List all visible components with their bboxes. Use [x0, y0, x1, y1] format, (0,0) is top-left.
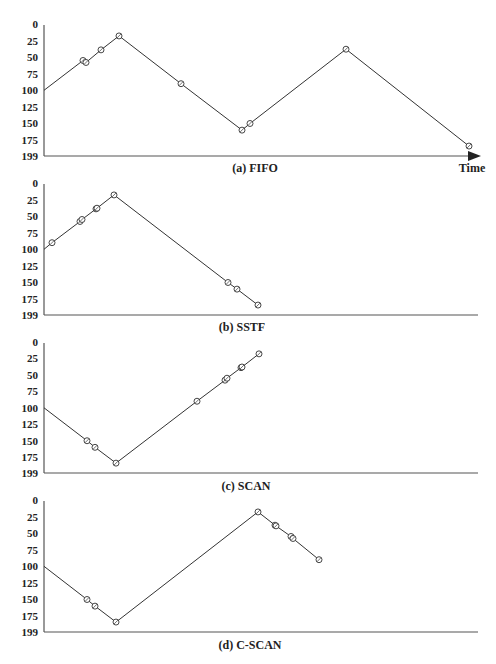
request-markers	[84, 509, 322, 625]
request-marker	[239, 127, 245, 133]
request-marker	[111, 192, 117, 198]
request-marker	[239, 364, 245, 370]
request-marker	[92, 444, 98, 450]
y-tick-label: 0	[33, 336, 39, 348]
y-axis-ticks: 0255075100125150175199	[22, 336, 39, 479]
request-marker	[83, 59, 89, 65]
head-movement-line	[44, 195, 258, 305]
y-tick-label: 100	[22, 402, 39, 414]
y-tick-label: 199	[22, 467, 39, 479]
chart-fifo: 0255075100125150175199Time(a) FIFO	[22, 18, 486, 175]
y-tick-label: 175	[22, 451, 39, 463]
y-tick-label: 125	[22, 418, 39, 430]
request-marker	[234, 286, 240, 292]
y-tick-label: 0	[33, 494, 39, 506]
chart-sstf: 0255075100125150175199(b) SSTF	[22, 177, 479, 334]
chart-caption: (a) FIFO	[232, 161, 278, 175]
y-tick-label: 150	[22, 435, 39, 447]
y-tick-label: 199	[22, 626, 39, 638]
request-marker	[343, 46, 349, 52]
request-marker	[79, 216, 85, 222]
request-marker	[84, 438, 90, 444]
head-movement-line	[44, 36, 469, 146]
y-tick-label: 125	[22, 577, 39, 589]
request-marker	[84, 596, 90, 602]
request-marker	[49, 240, 55, 246]
y-tick-label: 25	[27, 511, 39, 523]
request-marker	[290, 535, 296, 541]
chart-caption: (d) C-SCAN	[219, 638, 282, 652]
request-marker	[178, 81, 184, 87]
chart-scan: 0255075100125150175199(c) SCAN	[22, 336, 479, 493]
request-marker	[98, 47, 104, 53]
request-marker	[256, 351, 262, 357]
request-marker	[466, 143, 472, 149]
y-tick-label: 50	[27, 527, 39, 539]
y-tick-label: 75	[27, 385, 39, 397]
y-tick-label: 0	[33, 18, 39, 30]
y-tick-label: 150	[22, 276, 39, 288]
y-tick-label: 100	[22, 560, 39, 572]
y-tick-label: 199	[22, 309, 39, 321]
y-tick-label: 175	[22, 610, 39, 622]
y-tick-label: 25	[27, 194, 39, 206]
request-marker	[113, 460, 119, 466]
y-axis-ticks: 0255075100125150175199	[22, 177, 39, 321]
request-marker	[94, 205, 100, 211]
disk-scheduling-figure: 0255075100125150175199Time(a) FIFO025507…	[0, 0, 496, 664]
disk-scheduling-charts: 0255075100125150175199Time(a) FIFO025507…	[0, 0, 496, 664]
y-axis-ticks: 0255075100125150175199	[22, 18, 39, 162]
chart-c-scan: 0255075100125150175199(d) C-SCAN	[22, 494, 479, 652]
y-tick-label: 100	[22, 243, 39, 255]
y-tick-label: 75	[27, 544, 39, 556]
y-tick-label: 125	[22, 260, 39, 272]
y-tick-label: 0	[33, 177, 39, 189]
request-marker	[116, 33, 122, 39]
y-axis-ticks: 0255075100125150175199	[22, 494, 39, 638]
request-markers	[49, 192, 261, 308]
y-tick-label: 175	[22, 134, 39, 146]
y-tick-label: 75	[27, 227, 39, 239]
request-marker	[113, 619, 119, 625]
request-marker	[273, 523, 279, 529]
y-tick-label: 25	[27, 35, 39, 47]
request-marker	[316, 557, 322, 563]
y-tick-label: 50	[27, 369, 39, 381]
y-tick-label: 25	[27, 352, 39, 364]
head-movement-line	[44, 354, 259, 463]
request-markers	[84, 351, 262, 466]
y-tick-label: 175	[22, 293, 39, 305]
request-marker	[247, 120, 253, 126]
chart-caption: (c) SCAN	[222, 479, 271, 493]
x-axis-label: Time	[459, 161, 486, 175]
y-tick-label: 50	[27, 210, 39, 222]
y-tick-label: 50	[27, 51, 39, 63]
y-tick-label: 125	[22, 101, 39, 113]
request-marker	[255, 509, 261, 515]
time-arrow-icon	[468, 151, 481, 161]
request-marker	[225, 279, 231, 285]
chart-caption: (b) SSTF	[219, 320, 265, 334]
y-tick-label: 150	[22, 593, 39, 605]
y-tick-label: 199	[22, 150, 39, 162]
y-tick-label: 150	[22, 117, 39, 129]
request-marker	[224, 375, 230, 381]
y-tick-label: 100	[22, 84, 39, 96]
y-tick-label: 75	[27, 68, 39, 80]
request-marker	[92, 603, 98, 609]
request-marker	[255, 302, 261, 308]
request-markers	[80, 33, 472, 149]
request-marker	[194, 398, 200, 404]
